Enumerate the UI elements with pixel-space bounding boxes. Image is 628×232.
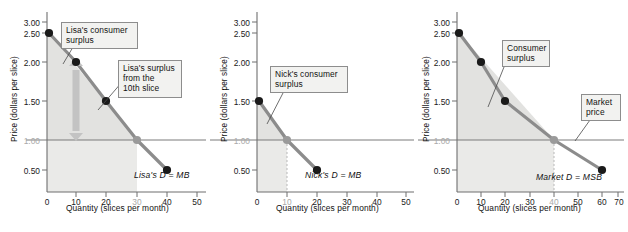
x-tick-label: 40 [158, 197, 176, 207]
curve-label-nick: Nick's D = MB [305, 170, 362, 180]
y-tick-label: 2.00 [222, 58, 250, 68]
y-tick-label: 0.50 [12, 166, 40, 176]
data-point [501, 97, 509, 105]
y-tick-label: 1.50 [222, 97, 250, 107]
expenditure-area [47, 140, 137, 192]
data-point [45, 29, 53, 37]
y-tick-label: 2.00 [422, 58, 450, 68]
data-point-highlight [550, 136, 558, 144]
y-tick-label: 0.50 [422, 166, 450, 176]
y-tick-label: 0.50 [222, 166, 250, 176]
x-tick-label: 50 [188, 197, 206, 207]
x-tick-label-highlight: 10 [278, 197, 296, 207]
y-tick-label: 3.00 [422, 18, 450, 28]
expenditure-area [457, 140, 554, 192]
curve-label-lisa: Lisa's D = MB [134, 170, 190, 180]
y-tick-label: 2.50 [12, 29, 40, 39]
x-tick-label: 20 [97, 197, 115, 207]
y-tick-label: 1.50 [12, 97, 40, 107]
data-point-highlight [283, 136, 291, 144]
x-tick-label: 70 [610, 197, 628, 207]
x-tick-label-highlight: 30 [128, 197, 146, 207]
y-tick-label: 2.00 [12, 58, 40, 68]
x-tick-label: 50 [569, 197, 587, 207]
panel-lisa: Price (dollars per slice) Quantity (slic… [0, 0, 210, 232]
panel-nick: Price (dollars per slice) Quantity (slic… [210, 0, 418, 232]
x-tick-label: 30 [521, 197, 539, 207]
x-tick-label: 60 [593, 197, 611, 207]
x-tick-label: 0 [448, 197, 466, 207]
consumer-surplus-figure: Price (dollars per slice) Quantity (slic… [0, 0, 628, 232]
y-tick-label: 2.50 [222, 29, 250, 39]
y-tick-label: 3.00 [222, 18, 250, 28]
data-point [455, 29, 463, 37]
y-tick-label-highlight: 1.00 [422, 136, 450, 146]
x-tick-label: 20 [496, 197, 514, 207]
curve-label-market: Market D = MSB [536, 172, 602, 182]
x-tick-label: 0 [38, 197, 56, 207]
y-tick-label-highlight: 1.00 [222, 136, 250, 146]
data-point [72, 58, 80, 66]
panel-market: Price (dollars per slice) Quantity (slic… [418, 0, 628, 232]
y-tick-label: 2.50 [422, 29, 450, 39]
y-tick-label-highlight: 1.00 [12, 136, 40, 146]
x-tick-label: 20 [308, 197, 326, 207]
x-tick-label: 0 [248, 197, 266, 207]
x-tick-label: 10 [67, 197, 85, 207]
data-point [255, 97, 263, 105]
callout-consumer-surplus: Nick's consumer surplus [270, 66, 348, 93]
callout-consumer-surplus: Consumer surplus [502, 40, 550, 67]
y-tick-label: 3.00 [12, 18, 40, 28]
leader-line-market-price [575, 120, 590, 141]
expenditure-area [257, 140, 287, 192]
data-point-highlight [133, 136, 141, 144]
leader-line-consumer-surplus [267, 93, 283, 124]
callout-consumer-surplus: Lisa's consumer surplus [61, 22, 138, 49]
x-tick-label-highlight: 40 [545, 197, 563, 207]
y-tick-label: 1.50 [422, 97, 450, 107]
data-point [477, 58, 485, 66]
x-tick-label: 10 [472, 197, 490, 207]
callout-market-price: Market price [581, 94, 621, 121]
x-tick-label: 40 [368, 197, 386, 207]
x-tick-label: 50 [397, 197, 415, 207]
x-tick-label: 30 [338, 197, 356, 207]
callout-tenth-slice-surplus: Lisa's surplus from the 10th slice [118, 60, 182, 98]
